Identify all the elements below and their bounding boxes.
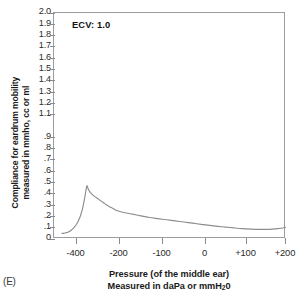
y-axis-tick-label: .9 [18, 132, 51, 141]
y-axis-tick-mark [50, 137, 55, 138]
y-axis-tick-mark [50, 159, 55, 160]
y-axis-tick-label: .4 [18, 188, 51, 197]
tympanogram-figure: Compliance for eardrum mobility measured… [0, 0, 306, 299]
y-axis-tick-label: .1 [18, 222, 51, 231]
x-axis-tick-mark [205, 238, 206, 244]
x-axis-tick-mark [162, 238, 163, 244]
y-axis-tick-label: 1.1 [18, 109, 51, 118]
ecv-annotation: ECV: 1.0 [72, 19, 110, 30]
y-axis-tick-label: 0 [18, 233, 51, 242]
y-axis-tick-label: 1.8 [18, 30, 51, 39]
x-axis-tick-label: -200 [110, 247, 128, 258]
panel-letter: (E) [3, 276, 16, 287]
y-axis-tick-mark [50, 103, 55, 104]
x-axis-tick-label: -100 [153, 247, 171, 258]
y-axis-tick-label: .5 [18, 177, 51, 186]
y-axis-tick-label: 1.2 [18, 98, 51, 107]
y-axis-tick-label: .3 [18, 200, 51, 209]
x-axis-tick-mark [76, 238, 77, 244]
y-axis-tick-label: .2 [18, 211, 51, 220]
y-axis-tick-label: 2.0 [18, 7, 51, 16]
y-axis-tick-mark [50, 58, 55, 59]
y-axis-tick-mark [50, 216, 55, 217]
y-axis-tick-label: .8 [18, 143, 51, 152]
tympanogram-curve-canvas [54, 13, 286, 239]
x-axis-ticks: -400-200-1000+100+200 [53, 238, 285, 260]
y-axis-tick-label: 1.5 [18, 64, 51, 73]
plot-area: ECV: 1.0 [53, 12, 285, 238]
y-axis-tick-mark [50, 205, 55, 206]
y-axis-tick-mark [50, 13, 55, 14]
y-axis-tick-mark [50, 193, 55, 194]
x-axis-tick-label: -400 [67, 247, 85, 258]
y-axis-tick-label: 1.4 [18, 75, 51, 84]
y-axis-tick-mark [50, 171, 55, 172]
y-axis-tick-label: .7 [18, 154, 51, 163]
y-axis-tick-mark [50, 114, 55, 115]
y-axis-tick-mark [50, 148, 55, 149]
x-axis-tick-label: +100 [235, 247, 255, 258]
y-axis-tick-labels: 0.1.2.3.4.5.6.7.8.91.11.21.31.41.51.61.7… [18, 0, 51, 299]
y-axis-tick-label: 1.3 [18, 87, 51, 96]
x-axis-tick-mark [246, 238, 247, 244]
x-axis-title-line2-pre: Measured in daPa or mmH [108, 281, 222, 291]
x-axis-title-line2: Measured in daPa or mmH20 [53, 280, 285, 294]
y-axis-tick-label: 1.6 [18, 53, 51, 62]
x-axis-tick-mark [119, 238, 120, 244]
y-axis-tick-mark [50, 69, 55, 70]
y-axis-tick-mark [50, 35, 55, 36]
x-axis-title: Pressure (of the middle ear) Measured in… [53, 268, 285, 295]
y-axis-tick-label: 1.9 [18, 19, 51, 28]
y-axis-tick-mark [50, 24, 55, 25]
y-axis-tick-label: .6 [18, 166, 51, 175]
x-axis-tick-label: 0 [202, 247, 207, 258]
y-axis-tick-mark [50, 92, 55, 93]
x-axis-title-line2-post: 0 [225, 281, 230, 291]
y-axis-tick-mark [50, 80, 55, 81]
x-axis-title-line1: Pressure (of the middle ear) [53, 268, 285, 280]
y-axis-tick-mark [50, 227, 55, 228]
y-axis-tick-mark [50, 182, 55, 183]
x-axis-tick-mark [285, 238, 286, 244]
x-axis-tick-label: +200 [275, 247, 295, 258]
tympanogram-curve [62, 186, 286, 234]
y-axis-tick-mark [50, 46, 55, 47]
y-axis-tick-label: 1.7 [18, 41, 51, 50]
